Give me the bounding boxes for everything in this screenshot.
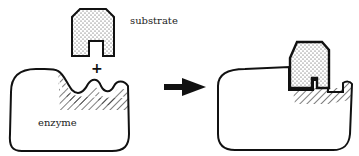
enzyme-substrate-diagram: substrate + enzyme bbox=[0, 0, 359, 156]
reaction-arrow bbox=[164, 78, 206, 96]
enzyme-bound bbox=[218, 67, 352, 150]
substrate-label: substrate bbox=[130, 15, 178, 26]
enzyme-free bbox=[10, 69, 129, 151]
substrate-free bbox=[72, 9, 114, 56]
plus-sign: + bbox=[91, 60, 103, 76]
enzyme-label: enzyme bbox=[38, 117, 77, 128]
diagram-stage: substrate + enzyme bbox=[0, 0, 359, 156]
substrate-bound bbox=[290, 42, 329, 88]
